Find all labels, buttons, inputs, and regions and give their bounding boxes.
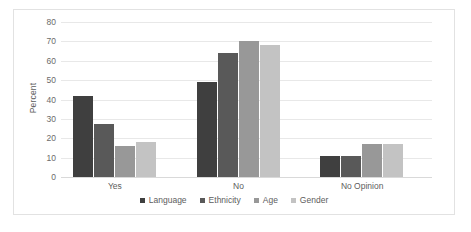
x-axis-category-label: No Opinion [341,182,384,191]
bar [341,156,361,177]
bar [218,53,238,177]
y-axis-tick-label: 60 [47,57,56,66]
y-axis-tick-label: 40 [47,95,56,104]
x-axis-category-label: No [233,182,244,191]
legend-swatch-icon [254,198,259,203]
bar [362,144,382,177]
bar [94,124,114,177]
bars-layer [61,22,432,177]
bar [320,156,340,177]
chart-container: Percent 01020304050607080 YesNoNo Opinio… [13,9,455,215]
bar [115,146,135,177]
gridline [61,177,432,178]
legend-swatch-icon [200,198,205,203]
legend-item[interactable]: Language [140,196,187,205]
bar [197,82,217,177]
y-axis-title: Percent [28,83,38,114]
bar [136,142,156,177]
y-axis-tick-label: 0 [51,173,56,182]
bar [73,96,93,177]
legend-item[interactable]: Ethnicity [200,196,241,205]
legend-swatch-icon [291,198,296,203]
x-axis-category-label: Yes [108,182,122,191]
legend-item[interactable]: Age [254,196,278,205]
bar [260,45,280,177]
legend-label: Gender [300,196,328,205]
y-axis-tick-label: 50 [47,76,56,85]
legend-item[interactable]: Gender [291,196,328,205]
plot-area: 01020304050607080 [61,22,432,177]
legend-swatch-icon [140,198,145,203]
y-axis-tick-label: 20 [47,134,56,143]
bar [239,41,259,177]
y-axis-tick-label: 80 [47,18,56,27]
legend-label: Language [149,196,187,205]
y-axis-tick-label: 70 [47,37,56,46]
y-axis-tick-label: 10 [47,153,56,162]
legend-label: Age [263,196,278,205]
bar [383,144,403,177]
y-axis-tick-label: 30 [47,115,56,124]
legend-label: Ethnicity [209,196,241,205]
chart-legend: LanguageEthnicityAgeGender [14,196,454,205]
